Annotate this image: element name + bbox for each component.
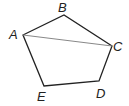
pentagon-abcde [23, 15, 112, 86]
vertex-label-d: D [96, 86, 105, 101]
vertex-label-a: A [8, 27, 18, 42]
vertex-label-c: C [113, 39, 123, 54]
vertex-label-b: B [58, 0, 67, 15]
pentagon-diagram: A B C D E [0, 0, 129, 106]
vertex-label-e: E [37, 89, 46, 104]
